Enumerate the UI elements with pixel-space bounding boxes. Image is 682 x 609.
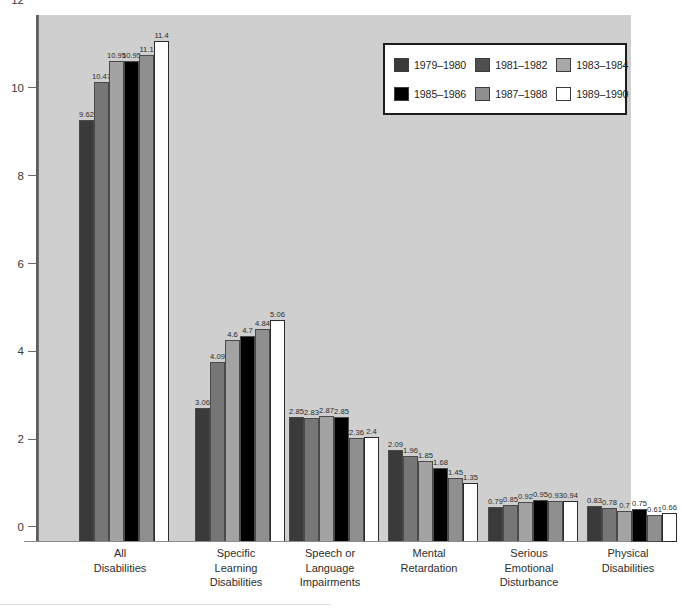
- bar-wrapper: 4.6: [225, 15, 240, 542]
- bar-value-label: 0.94: [563, 491, 578, 500]
- bar-wrapper: 2.4: [364, 15, 379, 542]
- legend-swatch: [475, 87, 490, 101]
- x-axis-category-label: AllDisabilities: [57, 546, 183, 575]
- category-label-line: Disturbance: [466, 575, 592, 590]
- bar-value-label: 2.83: [304, 408, 319, 417]
- bar-value-label: 2.36: [349, 428, 364, 437]
- bar-wrapper: 0.61: [647, 15, 662, 542]
- legend: 1979–19801981–19821983–1984 1985–1986198…: [383, 43, 627, 115]
- bar-group: 9.6210.4710.9510.9511.111.4: [79, 15, 169, 542]
- bar-value-label: 11.4: [154, 31, 168, 40]
- bar[interactable]: [124, 61, 139, 542]
- bar-wrapper: 2.87: [319, 15, 334, 542]
- legend-item[interactable]: 1981–1982: [475, 58, 547, 72]
- bar-value-label: 4.84: [255, 319, 270, 328]
- legend-item[interactable]: 1983–1984: [556, 58, 628, 72]
- bar-value-label: 0.66: [662, 503, 677, 512]
- bar[interactable]: [463, 483, 478, 542]
- bar-wrapper: 9.62: [79, 15, 94, 542]
- bar[interactable]: [334, 417, 349, 542]
- bar[interactable]: [548, 501, 563, 542]
- y-axis-tick-mark: [28, 175, 37, 176]
- y-axis-tick-label: 2: [18, 432, 28, 446]
- bar-value-label: 3.06: [195, 398, 210, 407]
- bar[interactable]: [503, 505, 518, 542]
- bar-value-label: 2.09: [388, 440, 403, 449]
- bar-value-label: 2.85: [289, 407, 304, 416]
- bar-value-label: 0.93: [548, 491, 563, 500]
- bar-group: 2.852.832.872.852.362.4: [289, 15, 379, 542]
- x-axis-category-label: PhysicalDisabilities: [565, 546, 682, 575]
- legend-row-top: 1979–19801981–19821983–1984: [394, 57, 637, 73]
- legend-label: 1981–1982: [495, 59, 547, 71]
- bar[interactable]: [518, 502, 533, 542]
- bar[interactable]: [388, 450, 403, 542]
- bar-value-label: 0.92: [518, 492, 533, 501]
- y-axis-tick-label: 6: [18, 257, 28, 271]
- bar[interactable]: [319, 416, 334, 542]
- bar[interactable]: [109, 61, 124, 542]
- bar-wrapper: 3.06: [195, 15, 210, 542]
- bar[interactable]: [488, 507, 503, 542]
- bar-value-label: 1.45: [448, 468, 463, 477]
- bar[interactable]: [433, 468, 448, 542]
- bar[interactable]: [270, 320, 285, 542]
- bar[interactable]: [364, 437, 379, 542]
- bar-wrapper: 2.85: [334, 15, 349, 542]
- legend-item[interactable]: 1979–1980: [394, 58, 466, 72]
- bar-value-label: 4.6: [227, 330, 238, 339]
- bar[interactable]: [304, 418, 319, 542]
- bar[interactable]: [240, 336, 255, 542]
- bar-value-label: 0.61: [647, 505, 662, 514]
- bar-wrapper: 11.4: [154, 15, 169, 542]
- bar[interactable]: [210, 362, 225, 542]
- bar[interactable]: [448, 478, 463, 542]
- bar-value-label: 1.35: [463, 473, 478, 482]
- bar[interactable]: [255, 329, 270, 542]
- bar-value-label: 0.75: [632, 499, 647, 508]
- y-axis-tick-label: 4: [18, 344, 28, 358]
- bar[interactable]: [349, 438, 364, 542]
- category-label-line: Impairments: [267, 575, 393, 590]
- bar-value-label: 4.09: [210, 352, 225, 361]
- bar[interactable]: [139, 55, 154, 542]
- bar[interactable]: [533, 500, 548, 542]
- bar[interactable]: [632, 509, 647, 542]
- x-axis-line: [24, 541, 631, 542]
- bar[interactable]: [225, 340, 240, 542]
- y-axis-tick-label: 10: [11, 81, 28, 95]
- bar[interactable]: [154, 41, 169, 542]
- legend-swatch: [394, 87, 409, 101]
- bar[interactable]: [647, 515, 662, 542]
- y-axis-tick: 0: [18, 520, 37, 534]
- bar[interactable]: [662, 513, 677, 542]
- bar-value-label: 2.85: [334, 407, 349, 416]
- bar[interactable]: [403, 456, 418, 542]
- bar[interactable]: [195, 408, 210, 542]
- legend-item[interactable]: 1987–1988: [475, 87, 547, 101]
- bar-value-label: 9.62: [79, 110, 94, 119]
- bar-wrapper: 10.47: [94, 15, 109, 542]
- bar[interactable]: [563, 501, 578, 542]
- legend-item[interactable]: 1989–1990: [556, 87, 628, 101]
- bar-value-label: 1.96: [403, 446, 418, 455]
- legend-item[interactable]: 1985–1986: [394, 87, 466, 101]
- bar[interactable]: [79, 120, 94, 542]
- legend-label: 1983–1984: [576, 59, 628, 71]
- bar[interactable]: [289, 417, 304, 542]
- bar-value-label: 11.1: [139, 45, 153, 54]
- category-label-line: All: [57, 546, 183, 561]
- bar[interactable]: [418, 461, 433, 542]
- bar-value-label: 4.7: [242, 326, 253, 335]
- legend-label: 1979–1980: [414, 59, 466, 71]
- bar-wrapper: 2.36: [349, 15, 364, 542]
- bar[interactable]: [94, 82, 109, 542]
- bar-wrapper: 0.66: [662, 15, 677, 542]
- bar[interactable]: [587, 506, 602, 542]
- bar[interactable]: [602, 508, 617, 542]
- legend-label: 1985–1986: [414, 88, 466, 100]
- bar[interactable]: [617, 511, 632, 542]
- y-axis-tick-label: 12: [11, 0, 28, 7]
- legend-label: 1987–1988: [495, 88, 547, 100]
